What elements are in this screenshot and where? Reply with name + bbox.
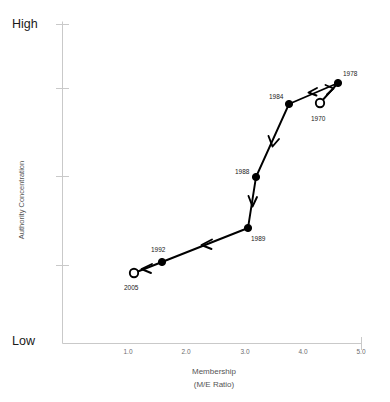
point-label-2005: 2005 (124, 284, 139, 291)
x-axis-title-sub: (M/E Ratio) (194, 380, 235, 389)
x-tick-label: 5.0 (356, 348, 365, 355)
x-tick-label: 2.0 (181, 348, 190, 355)
axes-group (56, 22, 362, 351)
point-label-1984: 1984 (269, 93, 284, 100)
x-tick-label: 3.0 (240, 348, 249, 355)
data-point-1978 (334, 79, 341, 86)
y-axis-high-label: High (12, 17, 38, 31)
data-point-1984 (285, 100, 292, 107)
data-point-1988 (252, 173, 259, 180)
chart-container: 1.0 2.0 3.0 4.0 5.0 High Low Authority C… (0, 0, 390, 402)
point-label-1970: 1970 (311, 115, 326, 122)
y-axis-low-label: Low (12, 334, 36, 348)
data-point-1970 (316, 99, 324, 107)
x-tick-label: 1.0 (123, 348, 132, 355)
data-point-2005 (130, 269, 138, 277)
point-label-1992: 1992 (151, 246, 166, 253)
point-label-1978: 1978 (343, 70, 358, 77)
x-tick-labels: 1.0 2.0 3.0 4.0 5.0 (123, 348, 365, 355)
data-point-1992 (158, 258, 165, 265)
x-tick-label: 4.0 (298, 348, 307, 355)
point-label-1988: 1988 (235, 168, 250, 175)
x-axis-title: Membership (192, 367, 237, 376)
y-axis-title: Authority Concentration (17, 161, 26, 239)
series-line-path (134, 83, 338, 273)
data-point-1989 (244, 224, 251, 231)
point-label-1989: 1989 (251, 235, 266, 242)
scatter-trajectory-chart: 1.0 2.0 3.0 4.0 5.0 High Low Authority C… (0, 0, 390, 402)
